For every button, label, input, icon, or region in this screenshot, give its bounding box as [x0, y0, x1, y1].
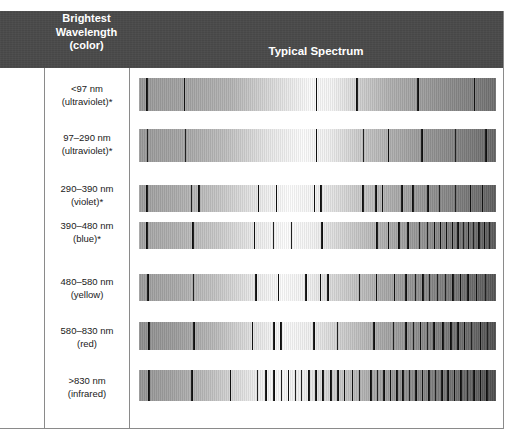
absorption-line	[460, 274, 461, 301]
absorption-line	[376, 222, 377, 249]
absorption-line	[427, 222, 428, 249]
row-label-wavelength: 580–830 nm	[45, 325, 129, 338]
absorption-line	[422, 370, 424, 401]
spectrum-bar	[139, 322, 496, 350]
row-label: 290–390 nm(violet)*	[45, 183, 129, 208]
absorption-line	[442, 322, 443, 350]
absorption-line	[427, 322, 428, 350]
absorption-line	[401, 185, 402, 212]
absorption-line	[464, 322, 466, 350]
spectral-comparison-figure: Brightest Wavelength (color) Typical Spe…	[0, 0, 509, 442]
column-header-line-2: Wavelength	[44, 26, 129, 40]
absorption-line	[420, 322, 422, 350]
absorption-line	[478, 222, 479, 249]
absorption-line	[184, 78, 186, 111]
row-label-wavelength: 390–480 nm	[45, 220, 129, 233]
absorption-line	[468, 222, 469, 249]
absorption-line	[437, 274, 438, 301]
absorption-line	[273, 370, 274, 401]
spectrum-bar	[139, 185, 496, 212]
absorption-line	[327, 274, 329, 301]
absorption-line	[193, 322, 195, 350]
column-header-brightest-wavelength: Brightest Wavelength (color)	[44, 12, 129, 53]
absorption-line	[337, 322, 338, 350]
spectrum-continuum	[139, 78, 496, 111]
absorption-line	[191, 185, 192, 212]
absorption-line	[258, 185, 259, 212]
spectrum-bar	[139, 78, 496, 111]
absorption-line	[146, 78, 148, 111]
absorption-line	[308, 370, 309, 401]
absorption-line	[398, 222, 400, 249]
absorption-line	[476, 274, 477, 301]
column-header-line-3: (color)	[44, 39, 129, 53]
absorption-line	[146, 222, 148, 249]
absorption-line	[315, 370, 317, 401]
absorption-line	[467, 370, 468, 401]
absorption-line	[421, 129, 423, 162]
absorption-line	[415, 370, 416, 401]
absorption-line	[467, 274, 468, 301]
table-divider-left	[44, 68, 45, 428]
absorption-line	[435, 370, 436, 401]
absorption-line	[445, 274, 447, 301]
absorption-line	[273, 222, 274, 249]
absorption-line	[254, 222, 255, 249]
absorption-line	[265, 370, 266, 401]
row-label-color: (blue)*	[45, 233, 129, 246]
spectrum-continuum	[139, 129, 496, 162]
absorption-line	[198, 185, 200, 212]
absorption-line	[376, 274, 377, 301]
absorption-line	[405, 322, 406, 350]
row-label-wavelength: 290–390 nm	[45, 183, 129, 196]
absorption-line	[359, 370, 360, 401]
row-label: 580–830 nm(red)	[45, 325, 129, 350]
row-label-color: (infrared)	[45, 388, 129, 401]
absorption-line	[417, 78, 419, 111]
absorption-line	[405, 274, 406, 301]
row-label-color: (ultraviolet)*	[45, 96, 129, 109]
absorption-line	[337, 370, 338, 401]
absorption-line	[455, 185, 457, 212]
absorption-line	[383, 370, 384, 401]
absorption-line	[484, 222, 485, 249]
spectrum-bar	[139, 129, 496, 162]
absorption-line	[255, 274, 256, 301]
absorption-line	[192, 222, 194, 249]
table-divider-right	[503, 11, 504, 428]
row-label-color: (red)	[45, 338, 129, 351]
absorption-line	[394, 274, 395, 301]
absorption-line	[480, 322, 481, 350]
absorption-line	[407, 222, 408, 249]
absorption-line	[273, 322, 274, 350]
absorption-line	[330, 370, 331, 401]
absorption-line	[230, 370, 232, 401]
column-header-line-1: Brightest	[44, 12, 129, 26]
absorption-line	[415, 274, 417, 301]
absorption-line	[409, 370, 410, 401]
absorption-line	[148, 322, 150, 350]
absorption-line	[146, 185, 148, 212]
absorption-line	[295, 370, 296, 401]
absorption-line	[356, 78, 358, 111]
absorption-line	[344, 370, 346, 401]
absorption-line	[427, 185, 428, 212]
absorption-line	[388, 222, 389, 249]
absorption-line	[473, 222, 474, 249]
absorption-line	[428, 370, 429, 401]
row-label-wavelength: 480–580 nm	[45, 276, 129, 289]
absorption-line	[441, 370, 443, 401]
absorption-line	[322, 370, 323, 401]
row-label-color: (violet)*	[45, 196, 129, 209]
absorption-line	[288, 370, 290, 401]
absorption-line	[396, 370, 398, 401]
absorption-line	[419, 222, 420, 249]
absorption-line	[460, 370, 462, 401]
absorption-line	[252, 322, 254, 350]
absorption-line	[377, 370, 378, 401]
absorption-line	[316, 129, 318, 162]
spectrum-continuum	[139, 185, 496, 212]
absorption-line	[452, 222, 453, 249]
absorption-line	[487, 322, 489, 350]
absorption-line	[276, 185, 277, 212]
